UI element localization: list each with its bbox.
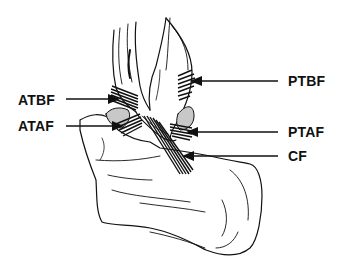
label-ptaf: PTAF [288,125,324,139]
label-ataf: ATAF [18,119,54,133]
label-cf: CF [288,149,307,163]
arrow-cf [182,151,278,161]
label-ptbf: PTBF [288,74,325,88]
arrow-ptaf [186,127,278,137]
ptbf-ligament [178,70,195,100]
arrow-ptbf [190,76,278,86]
label-atbf: ATBF [18,93,55,107]
arrow-ataf [66,121,124,131]
